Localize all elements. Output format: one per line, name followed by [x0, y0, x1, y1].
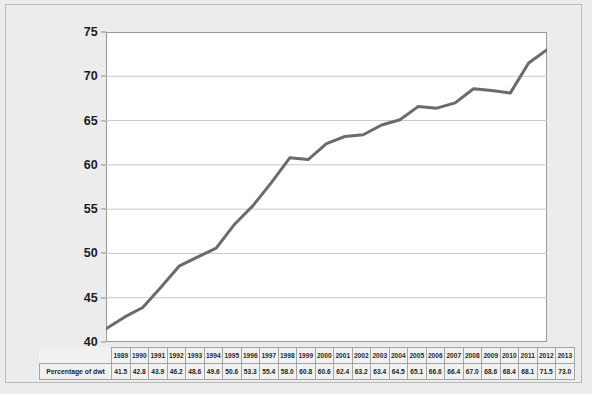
table-value-cell: 58.0: [278, 364, 297, 380]
y-axis-tick-label: 70: [84, 69, 98, 83]
table-value-cell: 66.6: [426, 364, 445, 380]
table-value-cell: 66.4: [445, 364, 464, 380]
table-year-cell: 1990: [130, 348, 149, 364]
line-chart-svg: [106, 32, 547, 342]
y-axis-tick-label: 75: [84, 25, 98, 39]
table-year-cell: 1994: [204, 348, 223, 364]
table-year-cell: 1992: [167, 348, 186, 364]
table-value-cell: 71.5: [537, 364, 556, 380]
table-value-cell: 64.5: [389, 364, 408, 380]
table-value-cell: 65.1: [408, 364, 427, 380]
table-year-cell: 1998: [278, 348, 297, 364]
y-axis-tick-label: 55: [84, 202, 98, 216]
table-value-cell: 63.4: [371, 364, 390, 380]
y-axis-tick-label: 60: [84, 158, 98, 172]
chart-figure: 4045505560657075 19891990199119921993199…: [5, 4, 582, 383]
data-line-percentage-of-dwt: [106, 50, 547, 329]
table-value-cell: 55.4: [260, 364, 279, 380]
plot-wrapper: [106, 32, 547, 342]
table-value-cell: 60.6: [315, 364, 334, 380]
table-year-cell: 2013: [556, 348, 575, 364]
table-year-cell: 1995: [223, 348, 242, 364]
table-year-cell: 2001: [334, 348, 353, 364]
table-year-cell: 2000: [315, 348, 334, 364]
table-year-cell: 2009: [482, 348, 501, 364]
table-value-cell: 68.4: [500, 364, 519, 380]
table-year-cell: 2003: [371, 348, 390, 364]
table-value-cell: 46.2: [167, 364, 186, 380]
table-value-cell: 67.0: [463, 364, 482, 380]
table-year-cell: 1989: [112, 348, 131, 364]
table-year-cell: 2010: [500, 348, 519, 364]
table-year-cell: 1993: [186, 348, 205, 364]
table-value-cell: 68.6: [482, 364, 501, 380]
table-year-cell: 1999: [297, 348, 316, 364]
table-value-cell: 43.9: [149, 364, 168, 380]
table-year-cell: 2004: [389, 348, 408, 364]
table-year-cell: 1991: [149, 348, 168, 364]
table-value-cell: 49.6: [204, 364, 223, 380]
table-year-cell: 2006: [426, 348, 445, 364]
table-value-cell: 42.8: [130, 364, 149, 380]
table-value-cell: 68.1: [519, 364, 538, 380]
table-row-values: Percentage of dwt 41.542.843.946.248.649…: [40, 364, 575, 380]
y-axis-tick-label: 50: [84, 246, 98, 260]
table-value-cell: 41.5: [112, 364, 131, 380]
table-value-cell: 62.4: [334, 364, 353, 380]
table-value-cell: 63.2: [352, 364, 371, 380]
table-year-cell: 2007: [445, 348, 464, 364]
table-value-cell: 53.3: [241, 364, 260, 380]
table-value-cell: 73.0: [556, 364, 575, 380]
table-year-cell: 2012: [537, 348, 556, 364]
table-row-label: Percentage of dwt: [40, 364, 112, 380]
table-value-cell: 60.8: [297, 364, 316, 380]
table-year-cell: 1997: [260, 348, 279, 364]
table-value-cell: 50.6: [223, 364, 242, 380]
table-year-cell: 1996: [241, 348, 260, 364]
y-axis-tick-label: 45: [84, 291, 98, 305]
table-value-cell: 48.6: [186, 364, 205, 380]
table-year-cell: 2008: [463, 348, 482, 364]
table-year-cell: 2011: [519, 348, 538, 364]
y-axis-tick-label: 65: [84, 114, 98, 128]
data-table: 1989199019911992199319941995199619971998…: [39, 347, 575, 380]
table-year-cell: 2002: [352, 348, 371, 364]
table-corner-cell: [40, 348, 112, 364]
table-row-years: 1989199019911992199319941995199619971998…: [40, 348, 575, 364]
table-year-cell: 2005: [408, 348, 427, 364]
y-axis: 4045505560657075: [6, 32, 106, 342]
